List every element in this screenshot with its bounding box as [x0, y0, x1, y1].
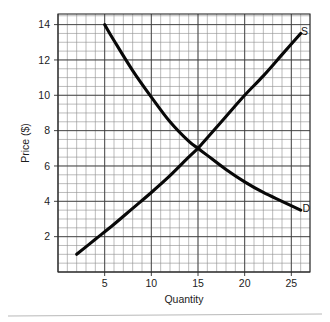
x-tick-label: 20	[239, 277, 251, 289]
x-tick-label: 15	[192, 277, 204, 289]
y-tick-label: 6	[44, 160, 50, 172]
y-tick-label: 14	[38, 18, 50, 30]
plot-area	[58, 14, 310, 272]
x-tick-label: 25	[285, 277, 297, 289]
x-axis-title: Quantity	[164, 293, 204, 305]
y-tick-label: 2	[44, 230, 50, 242]
y-tick-label: 4	[44, 195, 50, 207]
x-tick-label: 5	[102, 277, 108, 289]
demand-curve-label: D	[302, 202, 310, 214]
chart-canvas: 510152025 2468101214 SD Quantity Price (…	[0, 0, 330, 322]
plot-background	[58, 14, 310, 272]
y-tick-label: 12	[38, 54, 50, 66]
supply-demand-chart: 510152025 2468101214 SD Quantity Price (…	[0, 0, 330, 322]
supply-curve-label: S	[301, 25, 308, 37]
y-tick-label: 10	[38, 89, 50, 101]
y-tick-label: 8	[44, 124, 50, 136]
y-axis-title: Price ($)	[19, 123, 31, 163]
x-tick-label: 10	[145, 277, 157, 289]
